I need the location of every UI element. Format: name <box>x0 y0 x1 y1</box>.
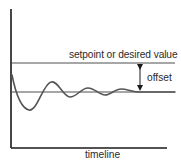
x-axis-label: timeline <box>85 150 120 160</box>
setpoint-label: setpoint or desired value <box>69 50 178 60</box>
offset-label: offset <box>147 73 172 83</box>
control-response-diagram: setpoint or desired value offset timelin… <box>0 0 181 164</box>
